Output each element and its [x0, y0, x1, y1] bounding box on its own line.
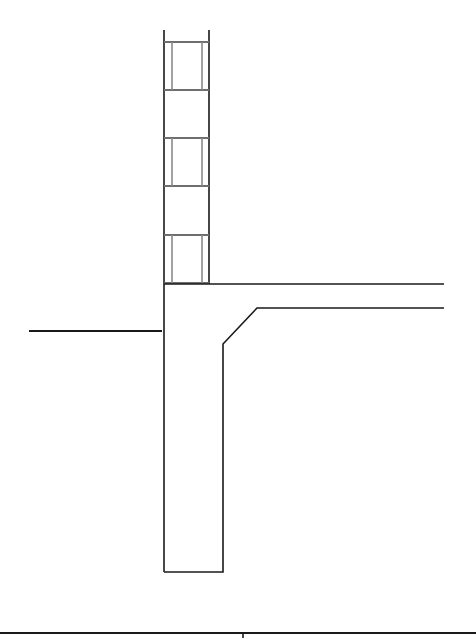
foundation-inner-profile: [164, 308, 444, 572]
title-block-border: [0, 633, 476, 638]
section-drawing: [0, 0, 476, 638]
masonry-block-wall: [164, 30, 209, 284]
foundation-wall-section-diagram: [0, 0, 476, 638]
foundation-stem-wall: [164, 284, 444, 572]
